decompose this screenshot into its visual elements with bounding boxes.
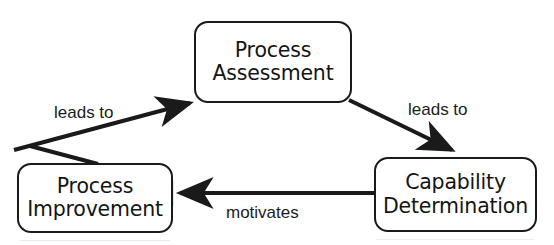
edge-label-assessment-to-capability: leads to — [408, 101, 468, 118]
node-capability-determination-line2: Determination — [383, 195, 528, 218]
node-capability-determination[interactable]: Capability Determination — [374, 157, 537, 232]
node-process-assessment-line2: Assessment — [213, 62, 334, 85]
node-process-improvement[interactable]: Process Improvement — [17, 163, 173, 233]
edge-label-capability-to-improvement: motivates — [226, 204, 299, 221]
diagram-canvas: Process Assessment Process Improvement C… — [0, 0, 554, 245]
node-capability-determination-line1: Capability — [405, 171, 506, 194]
node-process-assessment-line1: Process — [235, 39, 311, 62]
node-process-improvement-line1: Process — [57, 175, 133, 198]
node-process-improvement-line2: Improvement — [27, 198, 163, 221]
node-process-assessment[interactable]: Process Assessment — [194, 21, 352, 103]
edge-label-improvement-to-assessment: leads to — [54, 104, 114, 121]
